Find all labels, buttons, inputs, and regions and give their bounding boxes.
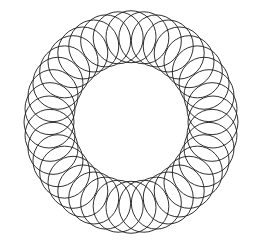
pattern-circle [172, 146, 222, 198]
pattern-circle [106, 11, 156, 63]
pattern-circle [106, 181, 156, 233]
pattern-circle [187, 83, 237, 135]
circle-group [24, 11, 238, 234]
pattern-circle [25, 83, 75, 135]
pattern-circle [58, 165, 108, 217]
pattern-circle [93, 180, 143, 232]
pattern-circle [40, 46, 90, 98]
spirograph-ring [0, 0, 253, 247]
pattern-circle [119, 12, 169, 64]
pattern-circle [24, 96, 74, 148]
pattern-circle [154, 27, 204, 79]
pattern-circle [188, 96, 238, 148]
